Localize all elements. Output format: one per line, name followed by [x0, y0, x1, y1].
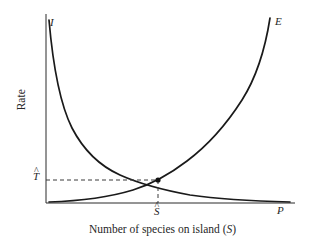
equilibrium-rate-hat-mark: ^ — [34, 166, 39, 176]
equilibrium-species-hat-mark: ^ — [155, 201, 160, 211]
island-biogeography-figure: I E P T ^ S ^ Rate Number of species on … — [0, 0, 325, 245]
equilibrium-rate-tick-label: T ^ — [33, 171, 39, 182]
species-pool-label: P — [277, 205, 284, 216]
x-axis-title-close: ) — [232, 223, 236, 235]
immigration-curve-label: I — [50, 17, 54, 28]
extinction-curve-label: E — [275, 16, 282, 27]
immigration-curve — [49, 20, 290, 202]
extinction-curve — [49, 18, 270, 202]
x-axis-title: Number of species on island (S) — [0, 224, 325, 236]
equilibrium-species-tick-label: S ^ — [154, 206, 160, 217]
x-axis-title-text: Number of species on island ( — [89, 223, 227, 235]
y-axis-title: Rate — [16, 70, 28, 130]
equilibrium-point-marker — [155, 177, 160, 182]
